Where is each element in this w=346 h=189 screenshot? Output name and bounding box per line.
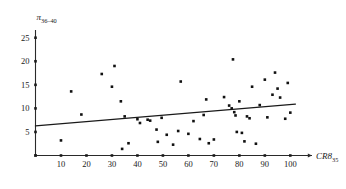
data-point: [248, 117, 251, 120]
x-tick-mark: [213, 154, 216, 157]
scatter-plot-figure: 102030405060708090100510152025π36–40CR83…: [0, 0, 346, 189]
x-tick-label: 10: [57, 159, 66, 169]
data-point: [234, 114, 237, 117]
data-point: [223, 96, 226, 99]
data-point: [238, 100, 241, 103]
data-point: [264, 78, 267, 81]
x-tick-mark: [238, 154, 241, 157]
data-point: [276, 87, 279, 90]
y-tick-mark: [34, 107, 37, 110]
x-tick-mark: [136, 154, 139, 157]
data-point: [121, 148, 124, 151]
y-tick-mark: [34, 131, 37, 134]
data-point: [246, 115, 249, 118]
data-point: [172, 143, 175, 146]
data-point: [127, 142, 130, 145]
x-tick-label: 90: [261, 159, 270, 169]
data-point: [60, 139, 63, 142]
data-point: [243, 140, 246, 143]
data-point: [251, 85, 254, 88]
data-point: [139, 122, 142, 125]
y-axis-title: π36–40: [37, 12, 57, 24]
x-axis-arrow-icon: [308, 153, 312, 157]
data-point: [202, 114, 205, 117]
x-tick-mark: [60, 154, 63, 157]
data-point: [284, 117, 287, 120]
data-point: [255, 142, 258, 145]
data-point: [213, 138, 216, 141]
data-point: [274, 71, 277, 74]
data-point: [279, 96, 282, 99]
x-tick-mark: [85, 154, 88, 157]
data-point: [258, 104, 261, 107]
data-point: [228, 104, 231, 107]
y-tick-mark: [34, 36, 37, 39]
data-point: [207, 142, 210, 145]
data-point: [70, 90, 73, 93]
data-point: [165, 133, 168, 136]
x-tick-label: 100: [284, 159, 297, 169]
x-tick-label: 60: [184, 159, 193, 169]
y-tick-mark: [34, 84, 37, 87]
data-point: [286, 82, 289, 85]
data-point: [266, 116, 269, 119]
data-point: [179, 80, 182, 83]
x-tick-label: 30: [108, 159, 117, 169]
data-point: [289, 111, 292, 114]
y-tick-label: 25: [21, 33, 30, 43]
x-tick-mark: [162, 154, 165, 157]
data-point: [123, 115, 126, 118]
data-point: [149, 119, 152, 122]
data-point: [111, 85, 114, 88]
x-tick-mark: [264, 154, 267, 157]
y-tick-label: 5: [25, 127, 29, 137]
y-tick-label: 20: [21, 56, 30, 66]
x-axis-title: CR835: [316, 151, 338, 163]
data-point: [199, 138, 202, 141]
x-tick-mark: [289, 154, 292, 157]
data-point: [192, 120, 195, 123]
data-point: [146, 118, 149, 121]
x-tick-mark: [111, 154, 114, 157]
data-point: [136, 118, 139, 121]
data-point: [230, 107, 233, 110]
data-point: [155, 128, 158, 131]
data-point: [160, 117, 163, 120]
data-point: [177, 130, 180, 133]
x-tick-label: 70: [210, 159, 219, 169]
data-point: [241, 132, 244, 135]
data-point: [236, 131, 239, 134]
data-point: [232, 58, 235, 61]
y-tick-label: 15: [21, 80, 30, 90]
plot-canvas: 102030405060708090100510152025π36–40CR83…: [0, 0, 346, 189]
data-point: [80, 113, 83, 116]
x-tick-label: 40: [133, 159, 142, 169]
origin-tick-mark: [34, 154, 37, 157]
data-point: [271, 93, 274, 96]
x-tick-label: 80: [235, 159, 244, 169]
data-point: [113, 65, 116, 68]
y-tick-mark: [34, 60, 37, 63]
regression-trend-line: [36, 104, 296, 126]
data-point: [233, 111, 236, 114]
data-point: [100, 73, 103, 76]
x-tick-label: 50: [159, 159, 168, 169]
data-point: [187, 133, 190, 136]
x-tick-label: 20: [82, 159, 91, 169]
data-point: [157, 141, 160, 144]
data-point: [120, 100, 123, 103]
x-tick-mark: [187, 154, 190, 157]
data-point: [205, 98, 208, 101]
y-tick-label: 10: [21, 103, 30, 113]
